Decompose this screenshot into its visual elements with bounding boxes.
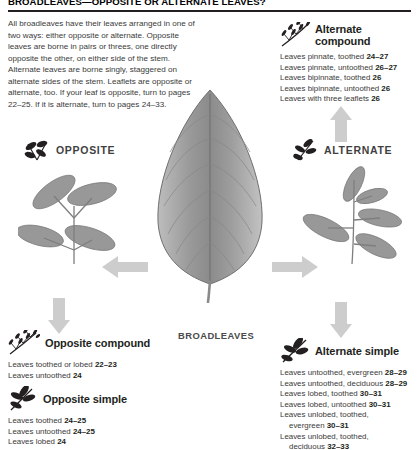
key-entry-text: Leaves pinnate, toothed: [280, 52, 366, 61]
key-entry: Leaves untoothed 24–25: [8, 427, 158, 438]
opposite-compound-sprig-icon: [8, 330, 40, 356]
alternate-sprig-icon: [292, 138, 318, 162]
key-entry: Leaves toothed or lobed 22–23: [8, 360, 158, 371]
alternate-specimen-photo: [292, 166, 404, 266]
key-entry-text: Leaves unlobed, toothed,: [280, 432, 369, 441]
key-entry-pages: 22–23: [95, 360, 117, 369]
section-alternate-simple-entries: Leaves untoothed, evergreen 28–29Leaves …: [280, 368, 419, 450]
key-entry: Leaves untoothed, evergreen 28–29: [280, 368, 419, 379]
node-opposite-label: OPPOSITE: [56, 144, 115, 156]
key-entry: Leaves bipinnate, toothed 26: [280, 73, 419, 84]
arrow-to-opposite-compound: [48, 298, 70, 334]
key-entry-text-continued: evergreen 30–31: [280, 421, 419, 432]
key-entry-text: Leaves with three leaflets: [280, 94, 371, 103]
opposite-simple-sprig-icon: [8, 386, 38, 412]
title-divider: [8, 10, 411, 12]
key-entry: Leaves bipinnate, untoothed 26: [280, 84, 419, 95]
arrow-to-alternate-simple: [330, 302, 352, 338]
key-entry-text: Leaves untoothed, deciduous: [280, 379, 385, 388]
key-entry-pages: 28–29: [385, 379, 407, 388]
key-entry-text: Leaves untoothed, evergreen: [280, 368, 385, 377]
key-entry-text: Leaves lobed: [8, 437, 57, 446]
key-entry-text: Leaves unlobed, toothed,: [280, 410, 369, 419]
key-entry: Leaves pinnate, untoothed 26–27: [280, 63, 419, 74]
opposite-sprig-icon: [24, 138, 50, 162]
broadleaf-specimen-photo: [148, 88, 272, 303]
section-alternate-simple-title: Alternate simple: [315, 345, 399, 357]
section-opposite-simple-entries: Leaves toothed 24–25Leaves untoothed 24–…: [8, 416, 158, 448]
section-alternate-compound: Alternate compound Leaves pinnate, tooth…: [280, 22, 419, 105]
key-entry: Leaves lobed, untoothed 30–31: [280, 400, 419, 411]
key-entry-text: Leaves toothed or lobed: [8, 360, 95, 369]
section-opposite-simple-title: Opposite simple: [43, 393, 127, 405]
key-entry-pages: 30–31: [360, 389, 382, 398]
key-entry-pages: 24–27: [366, 52, 388, 61]
key-entry: Leaves lobed 24: [8, 437, 158, 448]
key-entry-text: Leaves lobed, untoothed: [280, 400, 369, 409]
node-opposite: OPPOSITE: [24, 138, 115, 162]
key-entry: Leaves unlobed, toothed,evergreen 30–31: [280, 410, 419, 431]
key-entry-pages: 26: [381, 84, 390, 93]
opposite-specimen-photo: [18, 166, 130, 266]
key-entry: Leaves untoothed, deciduous 28–29: [280, 379, 419, 390]
node-alternate-label: ALTERNATE: [324, 144, 392, 156]
key-entry-text: Leaves bipinnate, toothed: [280, 73, 373, 82]
key-entry-text: Leaves lobed, toothed: [280, 389, 360, 398]
key-entry: Leaves pinnate, toothed 24–27: [280, 52, 419, 63]
key-entry-text: Leaves untoothed: [8, 427, 73, 436]
key-entry-text-continued: deciduous 32–33: [280, 442, 419, 450]
key-entry-pages: 28–29: [385, 368, 407, 377]
key-entry-pages: 32–33: [327, 442, 349, 450]
key-entry-text: Leaves bipinnate, untoothed: [280, 84, 381, 93]
key-entry-pages: 24: [73, 371, 82, 380]
section-opposite-compound-title: Opposite compound: [45, 337, 150, 349]
alternate-compound-sprig-icon: [280, 22, 310, 48]
key-entry-pages: 30–31: [369, 400, 391, 409]
key-entry: Leaves lobed, toothed 30–31: [280, 389, 419, 400]
page-title: BROADLEAVES—OPPOSITE OR ALTERNATE LEAVES…: [8, 0, 412, 7]
key-entry-pages: 26: [373, 73, 382, 82]
key-entry-pages: 26–27: [375, 63, 397, 72]
key-entry-pages: 26: [371, 94, 380, 103]
arrow-to-opposite: [102, 256, 148, 278]
section-opposite-simple: Opposite simple Leaves toothed 24–25Leav…: [8, 386, 158, 448]
section-alternate-simple: Alternate simple Leaves untoothed, everg…: [280, 338, 419, 450]
key-entry-pages: 30–31: [327, 421, 349, 430]
key-entry-text: Leaves pinnate, untoothed: [280, 63, 375, 72]
section-alternate-compound-title: Alternate compound: [315, 23, 419, 47]
key-entry-pages: 24: [57, 437, 66, 446]
key-entry: Leaves toothed 24–25: [8, 416, 158, 427]
alternate-simple-sprig-icon: [280, 338, 310, 364]
broadleaves-label: BROADLEAVES: [178, 330, 254, 341]
arrow-to-alternate-compound: [330, 106, 352, 142]
key-entry-pages: 24–25: [64, 416, 86, 425]
key-entry-text: Leaves toothed: [8, 416, 64, 425]
key-entry-pages: 24–25: [73, 427, 95, 436]
key-entry: Leaves with three leaflets 26: [280, 94, 419, 105]
key-entry-text: Leaves untoothed: [8, 371, 73, 380]
arrow-to-alternate: [272, 256, 318, 278]
broadleaf-key-diagram: BROADLEAVES—OPPOSITE OR ALTERNATE LEAVES…: [0, 0, 419, 450]
section-opposite-compound-entries: Leaves toothed or lobed 22–23Leaves unto…: [8, 360, 158, 381]
section-opposite-compound: Opposite compound Leaves toothed or lobe…: [8, 330, 158, 381]
key-entry: Leaves untoothed 24: [8, 371, 158, 382]
key-entry: Leaves unlobed, toothed,deciduous 32–33: [280, 432, 419, 450]
section-alternate-compound-entries: Leaves pinnate, toothed 24–27Leaves pinn…: [280, 52, 419, 105]
